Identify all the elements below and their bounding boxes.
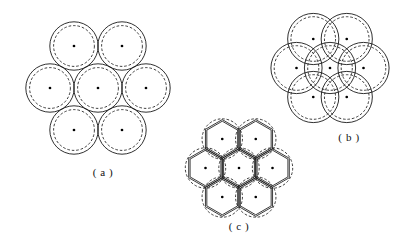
lattice-center-dot bbox=[204, 167, 207, 170]
lattice-center-dot bbox=[345, 96, 348, 99]
panel-c-caption: ( c ) bbox=[229, 220, 250, 233]
lattice-center-dot bbox=[49, 87, 52, 90]
lattice-center-dot bbox=[329, 67, 332, 70]
panel-a-diagram bbox=[26, 22, 170, 154]
lattice-center-dot bbox=[312, 96, 315, 99]
lattice-center-dot bbox=[345, 38, 348, 41]
lattice-center-dot bbox=[312, 38, 315, 41]
lattice-center-dot bbox=[97, 87, 100, 90]
lattice-center-dot bbox=[221, 196, 224, 199]
lattice-center-dot bbox=[295, 67, 298, 70]
panel-b-caption: ( b ) bbox=[338, 131, 359, 144]
lattice-center-dot bbox=[145, 87, 148, 90]
panel-b-diagram bbox=[271, 13, 389, 122]
panel-a-caption: ( a ) bbox=[93, 166, 114, 179]
lattice-center-dot bbox=[254, 196, 257, 199]
lattice-center-dot bbox=[73, 129, 76, 132]
lattice-center-dot bbox=[121, 129, 124, 132]
lattice-center-dot bbox=[238, 167, 241, 170]
lattice-center-dot bbox=[362, 67, 365, 70]
lattice-center-dot bbox=[221, 138, 224, 141]
lattice-center-dot bbox=[73, 45, 76, 48]
figure-container: ( a ) ( b ) ( c ) bbox=[0, 0, 414, 251]
lattice-center-dot bbox=[271, 167, 274, 170]
lattice-center-dot bbox=[254, 138, 257, 141]
lattice-center-dot bbox=[121, 45, 124, 48]
panel-c-diagram bbox=[185, 119, 292, 217]
figure-svg: ( a ) ( b ) ( c ) bbox=[0, 0, 414, 251]
